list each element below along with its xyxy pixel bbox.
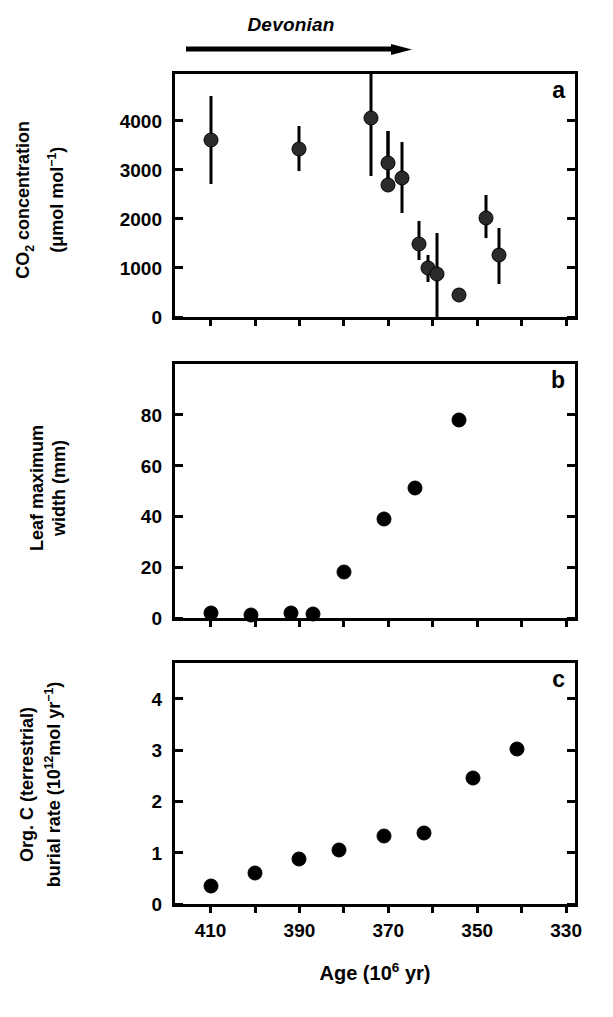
y-tick-label: 3 — [0, 741, 162, 760]
y-tick-label: 20 — [0, 558, 162, 577]
data-point — [336, 565, 351, 580]
x-tick-label: 390 — [269, 921, 329, 940]
x-tick-label: 350 — [447, 921, 507, 940]
x-tick-mark — [476, 904, 479, 913]
x-tick-mark — [387, 317, 390, 326]
data-point — [376, 829, 391, 844]
y-tick-mark — [175, 266, 183, 269]
y-tick-mark — [175, 413, 183, 416]
y-tick-label: 2000 — [0, 210, 162, 229]
data-point — [492, 248, 507, 263]
y-tick-label: 0 — [0, 895, 162, 914]
y-tick-mark — [567, 266, 575, 269]
y-tick-label: 0 — [0, 609, 162, 628]
data-point — [479, 211, 494, 226]
y-tick-mark — [175, 749, 183, 752]
y-tick-mark — [175, 697, 183, 700]
x-tick-mark — [431, 904, 434, 913]
data-point — [465, 771, 480, 786]
x-tick-mark — [476, 618, 479, 627]
data-point — [416, 826, 431, 841]
data-point — [292, 141, 307, 156]
y-tick-mark — [175, 217, 183, 220]
y-tick-mark — [567, 903, 575, 906]
data-point — [305, 607, 320, 622]
y-tick-mark — [175, 800, 183, 803]
era-label: Devonian — [186, 14, 396, 36]
x-tick-mark — [565, 904, 568, 913]
y-tick-mark — [567, 800, 575, 803]
x-tick-mark — [520, 904, 523, 913]
y-tick-mark — [567, 749, 575, 752]
y-tick-mark — [567, 566, 575, 569]
data-point — [283, 605, 298, 620]
y-tick-mark — [567, 168, 575, 171]
x-tick-mark — [298, 904, 301, 913]
data-point — [430, 267, 445, 282]
y-tick-label: 1000 — [0, 259, 162, 278]
data-point — [203, 605, 218, 620]
y-tick-mark — [567, 697, 575, 700]
data-point — [376, 511, 391, 526]
y-tick-label: 0 — [0, 308, 162, 327]
data-point — [243, 608, 258, 623]
y-tick-mark — [567, 217, 575, 220]
y-tick-label: 80 — [0, 406, 162, 425]
era-arrow-icon — [186, 44, 412, 56]
y-tick-mark — [567, 515, 575, 518]
y-title-c2-pre: burial rate (10 — [44, 769, 64, 887]
x-title-tail: yr) — [399, 962, 430, 984]
data-point — [381, 156, 396, 171]
y-tick-mark — [175, 566, 183, 569]
y-tick-mark — [175, 316, 183, 319]
panel-c-letter: c — [552, 667, 565, 691]
x-tick-mark — [209, 317, 212, 326]
y-tick-mark — [175, 617, 183, 620]
y-tick-label: 1 — [0, 844, 162, 863]
data-point — [412, 236, 427, 251]
x-tick-mark — [520, 317, 523, 326]
y-tick-mark — [567, 413, 575, 416]
y-tick-label: 2 — [0, 792, 162, 811]
data-point — [452, 287, 467, 302]
x-tick-mark — [342, 904, 345, 913]
data-point — [203, 133, 218, 148]
panel-c-plot-area: c — [172, 660, 578, 907]
x-tick-label: 370 — [358, 921, 418, 940]
x-tick-mark — [565, 618, 568, 627]
x-title-main: Age (10 — [320, 962, 392, 984]
y-tick-label: 3000 — [0, 161, 162, 180]
data-point — [363, 111, 378, 126]
y-tick-label: 4000 — [0, 112, 162, 131]
devonian-era-band: Devonian — [186, 14, 412, 66]
data-point — [452, 412, 467, 427]
x-tick-mark — [298, 317, 301, 326]
x-tick-mark — [520, 618, 523, 627]
panel-a-letter: a — [552, 78, 565, 102]
x-tick-label: 410 — [181, 921, 241, 940]
y-tick-label: 40 — [0, 507, 162, 526]
x-tick-mark — [387, 618, 390, 627]
data-point — [408, 481, 423, 496]
x-axis-title: Age (106 yr) — [175, 957, 575, 984]
x-tick-label: 330 — [536, 921, 596, 940]
y-tick-mark — [175, 851, 183, 854]
x-tick-mark — [254, 317, 257, 326]
x-tick-mark — [387, 904, 390, 913]
data-point — [292, 851, 307, 866]
figure-root: Devonian CO2 concentration (μmol mol−1) … — [0, 0, 613, 1017]
data-point — [203, 879, 218, 894]
y-tick-mark — [567, 119, 575, 122]
y-title-c2-post: ) — [44, 682, 64, 688]
y-title-a2-post: ) — [47, 147, 67, 153]
y-tick-mark — [567, 851, 575, 854]
y-tick-mark — [567, 316, 575, 319]
y-tick-mark — [175, 515, 183, 518]
y-tick-mark — [567, 617, 575, 620]
y-tick-mark — [175, 464, 183, 467]
x-tick-mark — [342, 618, 345, 627]
x-tick-mark — [209, 904, 212, 913]
x-tick-mark — [565, 317, 568, 326]
y-tick-mark — [175, 168, 183, 171]
x-tick-mark — [254, 904, 257, 913]
